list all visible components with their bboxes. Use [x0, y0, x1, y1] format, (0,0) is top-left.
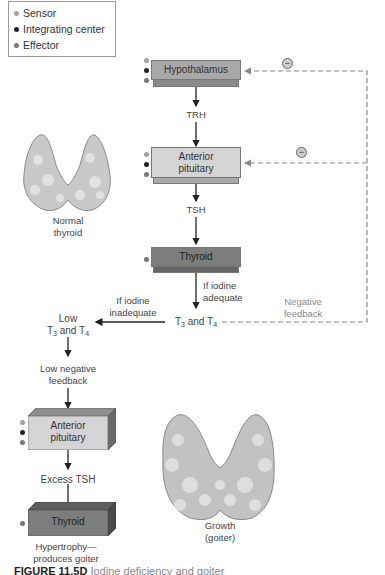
effector-dot-icon: [20, 440, 25, 445]
inhibit-icon: −: [296, 147, 307, 158]
inhibit-icon: −: [282, 58, 293, 69]
figure-caption: FIGURE 11.5D Iodine deficiency and goite…: [14, 565, 224, 575]
integrating-center-dot-icon: [20, 430, 25, 435]
anterior-pituitary-line2: pituitary: [50, 432, 85, 443]
sensor-dot-icon: [144, 152, 149, 157]
tsh-label: TSH: [181, 204, 211, 216]
effector-dot-icon: [20, 521, 25, 526]
trh-label: TRH: [181, 109, 211, 121]
thyroid-label: Thyroid: [179, 251, 212, 263]
excess-tsh-label: Excess TSH: [30, 474, 106, 486]
effector-dot-icon: [144, 78, 149, 83]
thyroid-box: Thyroid: [151, 247, 241, 273]
pituitary-role-dots: [144, 152, 149, 177]
anterior-pituitary-box: Anterior pituitary: [151, 147, 241, 184]
normal-thyroid-label: Normalthyroid: [42, 215, 94, 239]
thyroid-box-goiter: Thyroid: [28, 502, 116, 536]
normal-thyroid-illustration: [24, 135, 111, 211]
negative-feedback-label: Negativefeedback: [278, 296, 328, 320]
anterior-pituitary-line1: Anterior: [50, 420, 85, 431]
effector-dot-icon: [144, 257, 149, 262]
hypothalamus-label: Hypothalamus: [164, 64, 228, 76]
thyroid-label: Thyroid: [28, 516, 108, 528]
sensor-dot-icon: [144, 58, 149, 63]
anterior-pituitary-line2: pituitary: [178, 163, 213, 174]
integrating-center-dot-icon: [144, 162, 149, 167]
hypothalamus-box: Hypothalamus: [151, 60, 241, 87]
hypothalamus-role-dots: [144, 58, 149, 83]
if-iodine-inadequate-label: If iodineinadequate: [105, 295, 161, 319]
hypertrophy-label: Hypertrophy—produces goiter: [26, 541, 106, 565]
anterior-pituitary-line1: Anterior: [178, 151, 213, 162]
anterior-pituitary-box-goiter: Anterior pituitary: [28, 408, 116, 450]
goiter-illustration: [163, 415, 274, 520]
goiter-label: Growth(goiter): [194, 520, 246, 544]
low-t3-t4-label: Low T3 and T4: [40, 313, 96, 340]
if-iodine-adequate-label: If iodineadequate: [203, 280, 253, 304]
integrating-center-dot-icon: [144, 68, 149, 73]
low-negative-feedback-label: Low negativefeedback: [30, 363, 106, 387]
pituitary-goiter-role-dots: [20, 420, 25, 445]
effector-dot-icon: [144, 172, 149, 177]
t3-t4-label: T3 and T4: [168, 316, 224, 331]
sensor-dot-icon: [20, 420, 25, 425]
